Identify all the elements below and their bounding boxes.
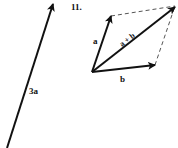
vector-sum-label: a + b: [118, 31, 137, 49]
problem-number: 11.: [71, 2, 82, 12]
vector-diagram: 3a 11. a b a + b: [0, 0, 178, 148]
vector-a-label: a: [93, 36, 98, 46]
vector-b-label: b: [120, 74, 125, 84]
vector-3a-arrow: [7, 4, 53, 148]
vector-b-arrow: [92, 65, 155, 72]
vector-3a-label: 3a: [29, 86, 39, 96]
